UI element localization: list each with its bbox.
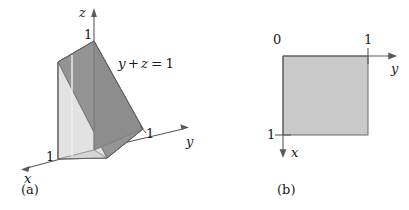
b-x-axis-arrowhead (280, 149, 287, 158)
figure-container: z y x 1 1 1 y+z=1 (a) (0, 0, 409, 210)
unit-square-region (283, 56, 368, 135)
y-axis-arrowhead (180, 124, 189, 130)
b-y-axis-label: y (391, 62, 398, 75)
panel-b: 0 1 1 y x (b) (205, 0, 409, 210)
plane-equation-rhs: 1 (165, 55, 174, 71)
x-tick-label: 1 (46, 150, 54, 163)
plane-equation-z: z (141, 55, 148, 71)
z-axis-label: z (79, 6, 86, 19)
panel-b-drawing (205, 0, 409, 210)
panel-b-caption: (b) (277, 183, 295, 196)
plane-equation-label: y+z=1 (118, 57, 174, 71)
b-origin-label: 0 (273, 33, 281, 46)
b-y-tick-label: 1 (364, 33, 372, 46)
panel-a: z y x 1 1 1 y+z=1 (a) (0, 0, 205, 210)
panel-a-caption: (a) (21, 183, 39, 196)
plane-equation-y: y (118, 55, 126, 71)
y-tick-label: 1 (146, 127, 154, 140)
z-tick-label: 1 (84, 28, 92, 41)
plane-equation-equals: = (148, 55, 165, 71)
plane-equation-plus: + (126, 55, 141, 71)
y-axis-label: y (186, 135, 193, 148)
b-x-tick-label: 1 (267, 128, 275, 141)
z-axis-arrowhead (91, 8, 97, 17)
b-x-axis-label: x (291, 146, 298, 159)
b-y-axis-arrowhead (388, 53, 397, 60)
